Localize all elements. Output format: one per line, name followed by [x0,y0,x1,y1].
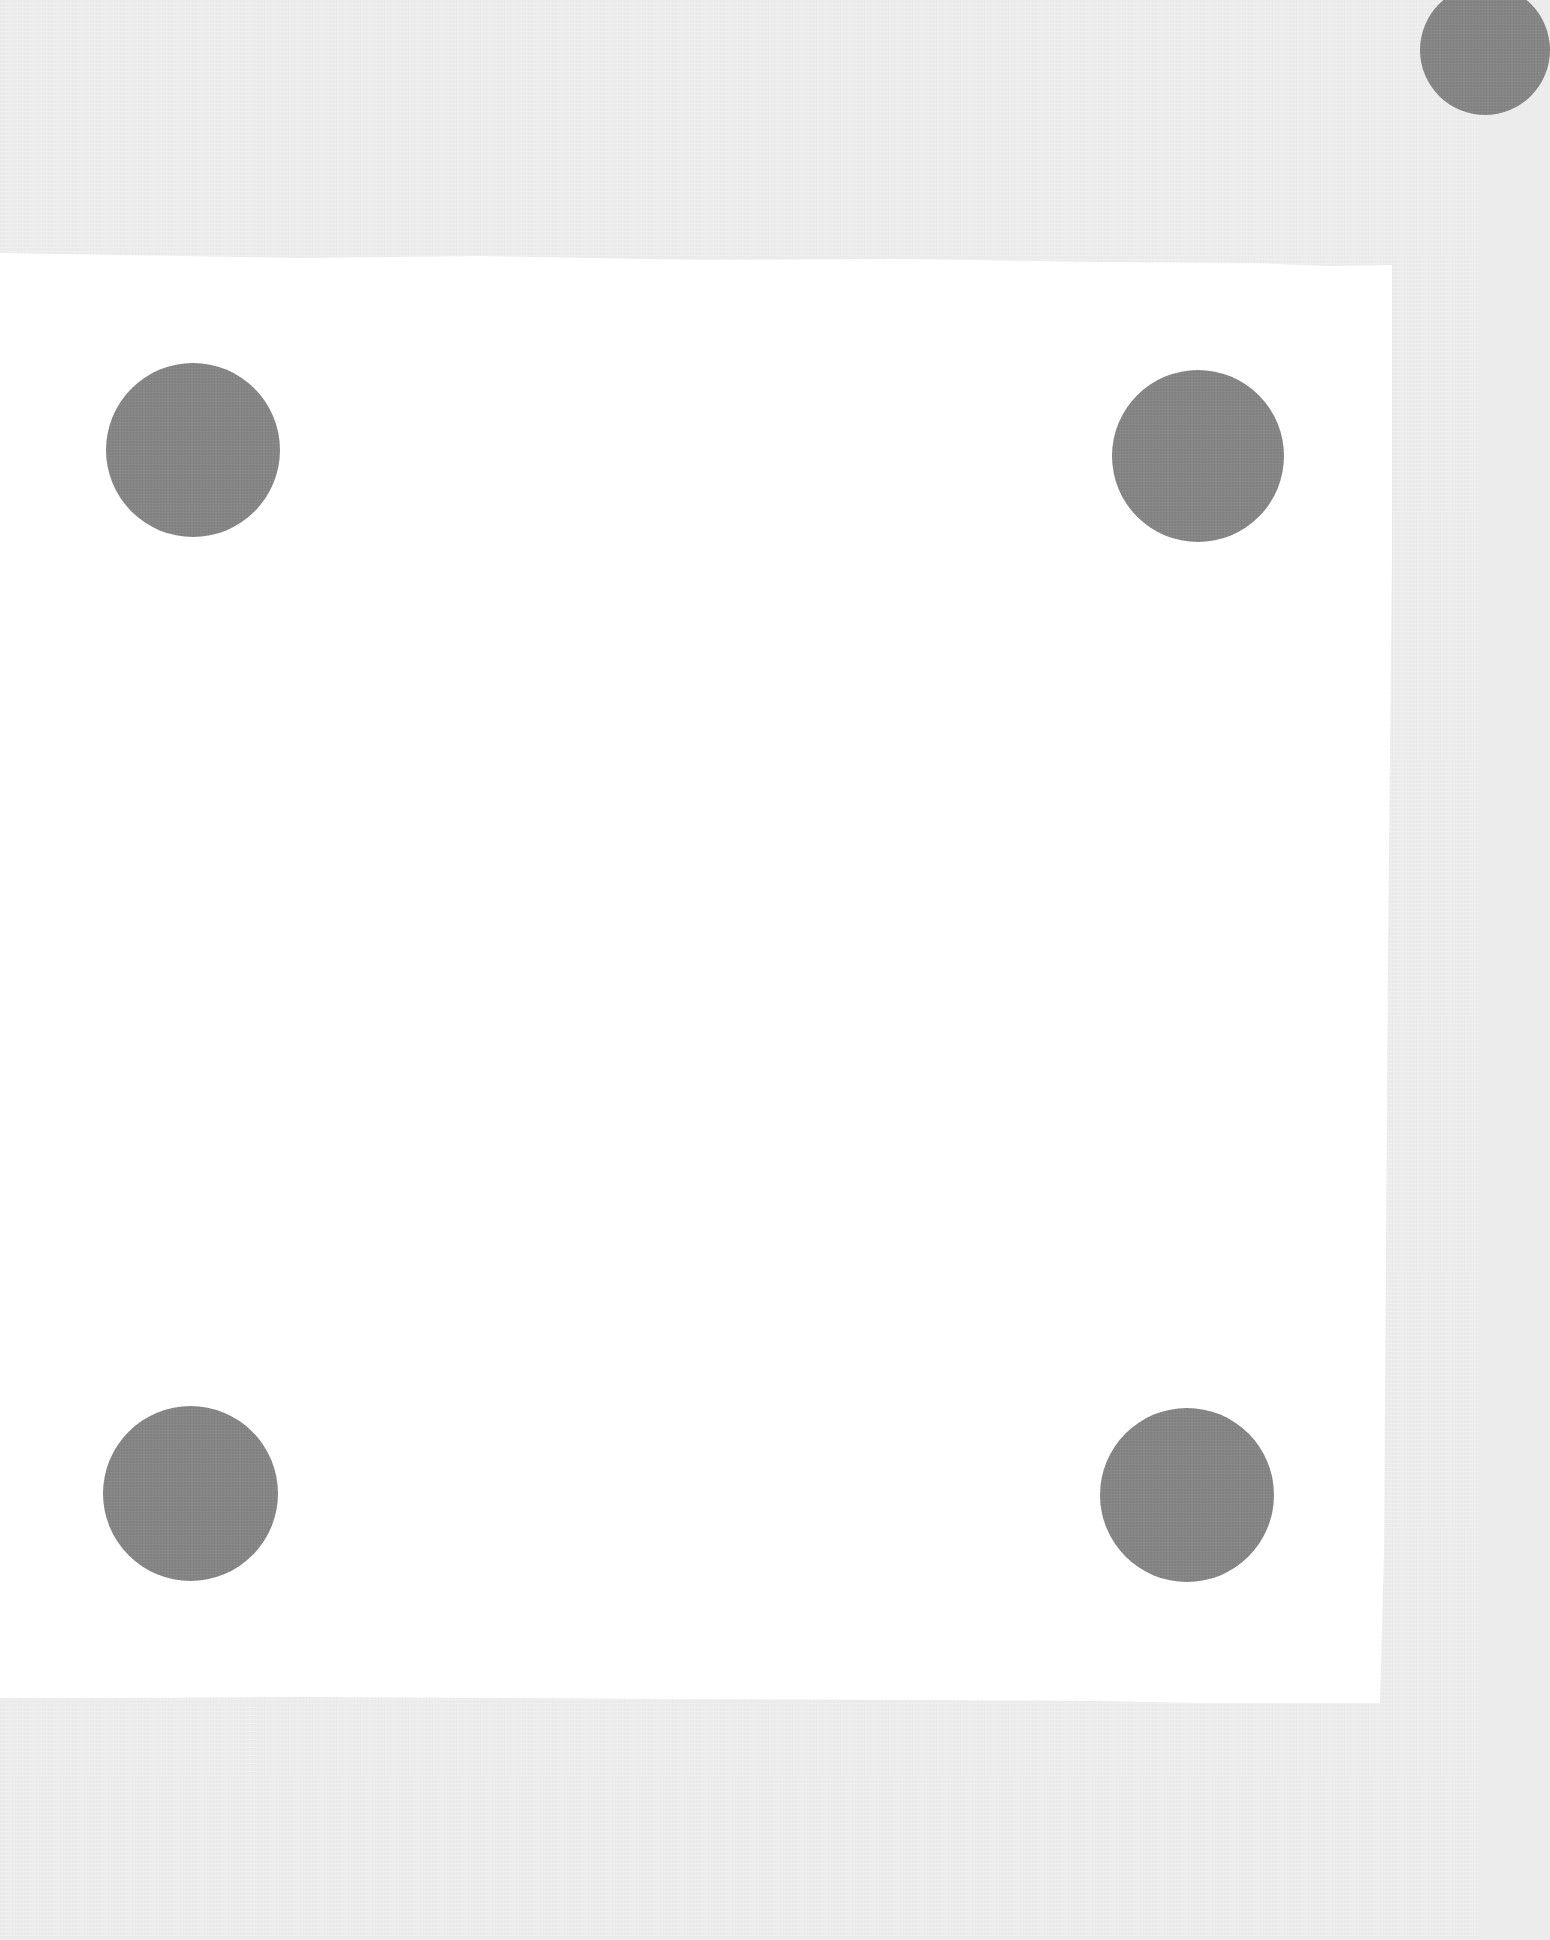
dot-top-right [1112,370,1284,542]
dot-bottom-right [1100,1408,1274,1582]
dot-top-left [106,363,280,537]
partial-dot-top-right-corner [1420,0,1550,115]
dot-bottom-left [103,1406,278,1581]
